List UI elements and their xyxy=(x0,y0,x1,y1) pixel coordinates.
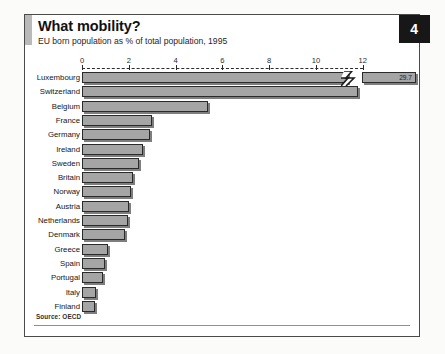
bar-value-label: 29.7 xyxy=(399,73,415,82)
category-label: Ireland xyxy=(0,144,80,156)
x-axis-tick-label: 12 xyxy=(359,56,367,65)
x-axis-tick-mark xyxy=(363,65,364,70)
chart-row: Luxembourg29.7 xyxy=(0,72,445,86)
category-label: Austria xyxy=(0,201,80,213)
bar xyxy=(82,129,150,140)
bar xyxy=(82,229,125,240)
chart-row: Belgium xyxy=(0,101,445,115)
x-axis-tick-mark xyxy=(82,65,83,70)
category-label: Luxembourg xyxy=(0,72,80,84)
source-note: Source: OECD xyxy=(36,313,81,320)
bar xyxy=(82,215,128,226)
x-axis-tick-mark xyxy=(129,65,130,70)
chart-row: France xyxy=(0,115,445,129)
bar xyxy=(82,101,208,112)
x-axis-tick-label: 0 xyxy=(80,56,84,65)
x-axis-tick-label: 2 xyxy=(127,56,131,65)
bar xyxy=(82,301,95,312)
x-axis-tick-label: 4 xyxy=(173,56,177,65)
bar xyxy=(82,172,133,183)
chart-row: Norway xyxy=(0,186,445,200)
category-label: France xyxy=(0,115,80,127)
bar xyxy=(82,72,348,83)
category-label: Britain xyxy=(0,172,80,184)
bar-broken-segment: 29.7 xyxy=(362,72,416,83)
bar xyxy=(82,186,131,197)
x-axis-tick-mark xyxy=(269,65,270,70)
category-label: Spain xyxy=(0,258,80,270)
chart-row: Germany xyxy=(0,129,445,143)
bar xyxy=(82,244,108,255)
category-label: Sweden xyxy=(0,158,80,170)
bar xyxy=(82,144,143,155)
category-label: Germany xyxy=(0,129,80,141)
chart-row: Netherlands xyxy=(0,215,445,229)
category-label: Finland xyxy=(0,301,80,313)
category-label: Greece xyxy=(0,244,80,256)
chart-row: Britain xyxy=(0,172,445,186)
axis-break-icon xyxy=(341,71,355,84)
chart-row: Spain xyxy=(0,258,445,272)
x-axis-tick-mark xyxy=(316,65,317,70)
x-axis-tick-mark xyxy=(176,65,177,70)
chart-row: Portugal xyxy=(0,272,445,286)
plot-area: 024681012Luxembourg29.7SwitzerlandBelgiu… xyxy=(0,0,445,354)
bar xyxy=(82,86,358,97)
chart-row: Italy xyxy=(0,287,445,301)
bar xyxy=(82,158,139,169)
category-label: Portugal xyxy=(0,272,80,284)
chart-row: Denmark xyxy=(0,229,445,243)
category-label: Norway xyxy=(0,186,80,198)
chart-row: Sweden xyxy=(0,158,445,172)
bar xyxy=(82,258,105,269)
bar xyxy=(82,201,129,212)
source-divider xyxy=(34,325,410,326)
x-axis-tick-label: 6 xyxy=(220,56,224,65)
category-label: Netherlands xyxy=(0,215,80,227)
chart-row: Switzerland xyxy=(0,86,445,100)
category-label: Italy xyxy=(0,287,80,299)
bar xyxy=(82,115,152,126)
chart-row: Greece xyxy=(0,244,445,258)
x-axis-tick-label: 8 xyxy=(267,56,271,65)
x-axis-tick-mark xyxy=(222,65,223,70)
bar xyxy=(82,287,96,298)
category-label: Denmark xyxy=(0,229,80,241)
chart-row: Austria xyxy=(0,201,445,215)
chart-figure: 4 What mobility? EU born population as %… xyxy=(0,0,445,354)
chart-row: Ireland xyxy=(0,144,445,158)
x-axis-tick-label: 10 xyxy=(312,56,320,65)
category-label: Switzerland xyxy=(0,86,80,98)
category-label: Belgium xyxy=(0,101,80,113)
bar xyxy=(82,272,103,283)
